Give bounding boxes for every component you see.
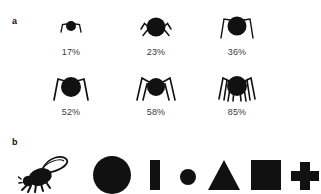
stimulus-label: 58% <box>113 108 199 117</box>
control-stimulus-triangle <box>204 152 244 194</box>
figure-canvas: a 17% 23% <box>0 0 321 194</box>
stimulus-spider-58: 58% <box>113 66 199 117</box>
control-stimulus-square <box>245 152 287 194</box>
spider-36-icon <box>194 6 280 46</box>
stimulus-spider-36: 36% <box>194 6 280 57</box>
small-circle-icon <box>172 152 204 194</box>
control-stimulus-vertical-bar <box>142 152 168 194</box>
spider-23-icon <box>113 6 199 46</box>
triangle-icon <box>204 152 244 194</box>
spider-85-icon <box>194 66 280 106</box>
stimulus-label: 23% <box>113 48 199 57</box>
panel-a-letter: a <box>12 17 17 26</box>
stimulus-spider-85: 85% <box>194 66 280 117</box>
stimulus-spider-52: 52% <box>28 66 114 117</box>
square-icon <box>245 152 287 194</box>
vertical-bar-icon <box>142 152 168 194</box>
cross-icon <box>288 152 321 194</box>
spider-52-icon <box>28 66 114 106</box>
spider-58-icon <box>113 66 199 106</box>
stimulus-label: 52% <box>28 108 114 117</box>
spider-17-icon <box>28 6 114 46</box>
stimulus-label: 85% <box>194 108 280 117</box>
stimulus-label: 36% <box>194 48 280 57</box>
stimulus-spider-17: 17% <box>28 6 114 57</box>
control-stimulus-fly <box>18 152 74 194</box>
fly-icon <box>18 152 74 194</box>
stimulus-label: 17% <box>28 48 114 57</box>
stimulus-spider-23: 23% <box>113 6 199 57</box>
control-stimulus-cross <box>288 152 321 194</box>
panel-b-letter: b <box>12 138 18 147</box>
large-circle-icon <box>86 152 138 194</box>
control-stimulus-small-circle <box>172 152 204 194</box>
control-stimulus-large-circle <box>86 152 138 194</box>
